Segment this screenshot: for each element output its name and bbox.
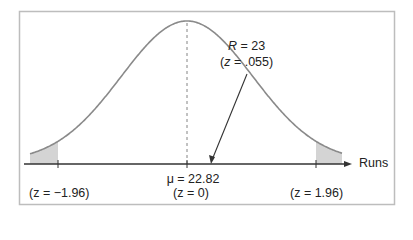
R-symbol: R: [228, 39, 237, 53]
mean-value-label: μ = 22.82: [167, 172, 220, 186]
pointer-arrow-line: [212, 74, 247, 160]
observed-z-label: (z = .055): [220, 55, 273, 69]
z-value: = .055): [230, 55, 273, 69]
pointer-arrowhead: [209, 155, 215, 164]
right-critical-label: (z = 1.96): [290, 186, 343, 200]
left-critical-label: (z = −1.96): [29, 186, 89, 200]
x-axis-label: Runs: [359, 156, 388, 170]
normal-curve: [30, 21, 342, 154]
mean-z-label: (z = 0): [173, 186, 209, 200]
R-value: = 23: [237, 39, 265, 53]
axis-arrowhead: [344, 161, 352, 167]
observed-R-label: R = 23: [228, 39, 265, 53]
